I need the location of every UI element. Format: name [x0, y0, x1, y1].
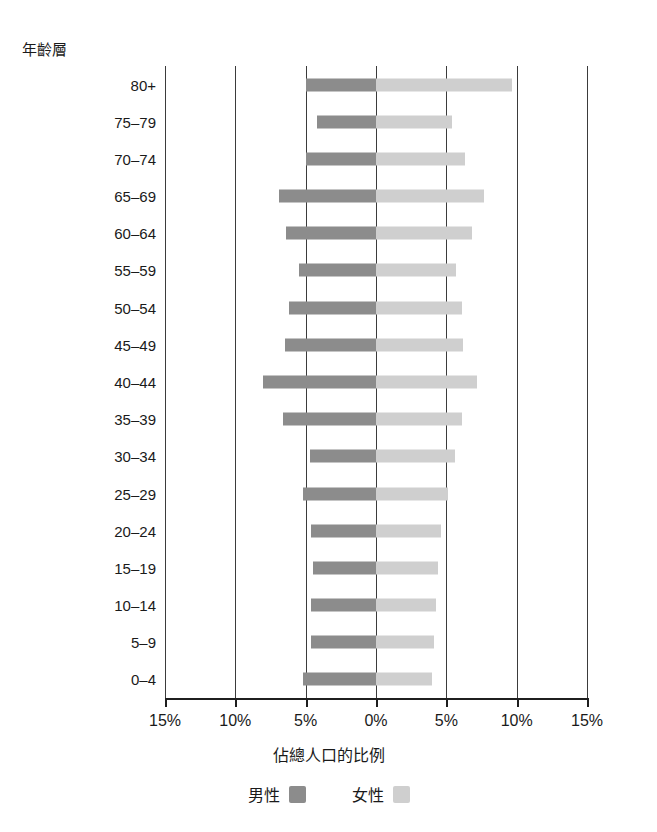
bar-female[interactable]: [376, 190, 484, 203]
x-axis-tick: [517, 698, 519, 707]
bar-male[interactable]: [289, 301, 376, 314]
x-axis-tick: [235, 698, 237, 707]
y-axis-caption: 年齡層: [22, 38, 67, 59]
bar-female[interactable]: [376, 450, 455, 463]
bar-female[interactable]: [376, 338, 463, 351]
bar-male[interactable]: [311, 636, 376, 649]
bar-male[interactable]: [303, 487, 376, 500]
bar-female[interactable]: [376, 561, 438, 574]
bar-female[interactable]: [376, 152, 465, 165]
pyramid-row: 75–79: [165, 103, 587, 140]
pyramid-row: 20–24: [165, 512, 587, 549]
chart-title: [0, 0, 657, 4]
bar-female[interactable]: [376, 375, 477, 388]
age-group-label: 5–9: [131, 634, 156, 651]
pyramid-row: 35–39: [165, 401, 587, 438]
population-pyramid-chart: 年齡層 80+75–7970–7465–6960–6455–5950–5445–…: [0, 0, 657, 832]
chart-legend: 男性 女性: [0, 782, 657, 806]
pyramid-row: 50–54: [165, 289, 587, 326]
bar-female[interactable]: [376, 301, 462, 314]
bar-female[interactable]: [376, 524, 441, 537]
bar-male[interactable]: [286, 227, 376, 240]
gridline: [587, 66, 588, 698]
pyramid-row: 0–4: [165, 661, 587, 698]
bar-female[interactable]: [376, 227, 472, 240]
bar-female[interactable]: [376, 599, 436, 612]
bar-male[interactable]: [299, 264, 376, 277]
age-group-label: 10–14: [114, 597, 156, 614]
legend-label-female: 女性: [352, 782, 384, 806]
x-axis-tick-label: 5%: [294, 712, 317, 730]
bar-male[interactable]: [303, 673, 376, 686]
x-axis-tick: [587, 698, 589, 707]
age-group-label: 45–49: [114, 336, 156, 353]
pyramid-row: 45–49: [165, 326, 587, 363]
bar-male[interactable]: [263, 375, 376, 388]
pyramid-row: 40–44: [165, 363, 587, 400]
x-axis-tick: [165, 698, 167, 707]
pyramid-row: 60–64: [165, 215, 587, 252]
pyramid-row: 30–34: [165, 438, 587, 475]
bar-female[interactable]: [376, 264, 456, 277]
x-axis-tick: [446, 698, 448, 707]
bar-female[interactable]: [376, 413, 462, 426]
age-group-label: 40–44: [114, 373, 156, 390]
legend-item-female[interactable]: 女性: [352, 782, 410, 806]
age-group-label: 15–19: [114, 559, 156, 576]
pyramid-row: 55–59: [165, 252, 587, 289]
bar-female[interactable]: [376, 673, 432, 686]
x-axis-tick: [306, 698, 308, 707]
pyramid-row: 25–29: [165, 475, 587, 512]
bar-male[interactable]: [311, 599, 376, 612]
age-group-label: 75–79: [114, 113, 156, 130]
age-group-label: 30–34: [114, 448, 156, 465]
x-axis-tick-label: 0%: [364, 712, 387, 730]
pyramid-row: 70–74: [165, 140, 587, 177]
legend-swatch-female-icon: [393, 786, 410, 803]
age-group-label: 80+: [131, 76, 156, 93]
x-axis-tick-label: 10%: [219, 712, 251, 730]
pyramid-row: 65–69: [165, 178, 587, 215]
bar-female[interactable]: [376, 487, 448, 500]
x-axis-tick-label: 15%: [149, 712, 181, 730]
age-group-label: 70–74: [114, 150, 156, 167]
x-axis-tick-label: 15%: [571, 712, 603, 730]
pyramid-row: 10–14: [165, 586, 587, 623]
bar-male[interactable]: [285, 338, 376, 351]
plot-area: 80+75–7970–7465–6960–6455–5950–5445–4940…: [165, 66, 587, 698]
age-group-label: 50–54: [114, 299, 156, 316]
age-group-label: 65–69: [114, 188, 156, 205]
bar-female[interactable]: [376, 115, 452, 128]
bar-male[interactable]: [306, 152, 376, 165]
x-axis-tick-label: 5%: [435, 712, 458, 730]
legend-label-male: 男性: [248, 782, 280, 806]
age-group-label: 60–64: [114, 225, 156, 242]
legend-swatch-male-icon: [289, 786, 306, 803]
bar-male[interactable]: [283, 413, 376, 426]
x-axis-title: 佔總人口的比例: [0, 742, 657, 766]
bar-male[interactable]: [279, 190, 376, 203]
bar-male[interactable]: [310, 450, 376, 463]
age-group-label: 20–24: [114, 522, 156, 539]
x-axis-tick-label: 10%: [501, 712, 533, 730]
legend-item-male[interactable]: 男性: [248, 782, 306, 806]
bar-male[interactable]: [311, 524, 376, 537]
bar-male[interactable]: [306, 78, 376, 91]
age-group-label: 25–29: [114, 485, 156, 502]
pyramid-row: 15–19: [165, 549, 587, 586]
bar-female[interactable]: [376, 78, 512, 91]
pyramid-row: 5–9: [165, 624, 587, 661]
bar-male[interactable]: [313, 561, 376, 574]
age-group-label: 0–4: [131, 671, 156, 688]
x-axis-tick: [376, 698, 378, 707]
age-group-label: 35–39: [114, 411, 156, 428]
pyramid-row: 80+: [165, 66, 587, 103]
age-group-label: 55–59: [114, 262, 156, 279]
bar-male[interactable]: [317, 115, 376, 128]
bar-female[interactable]: [376, 636, 434, 649]
